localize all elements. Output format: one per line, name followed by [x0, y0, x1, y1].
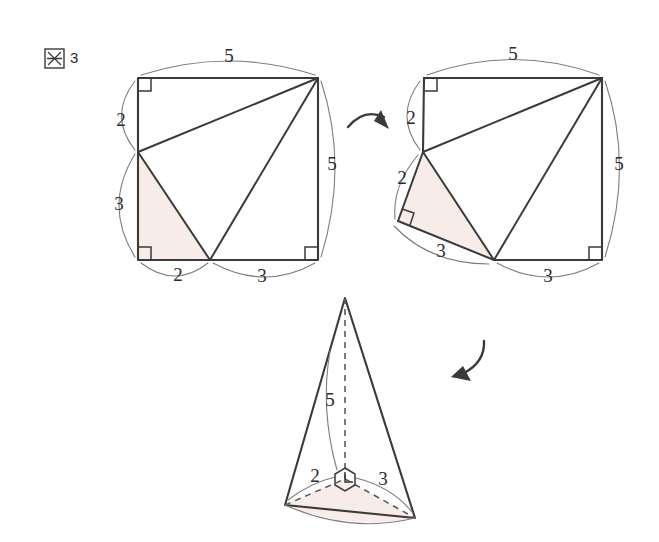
label-1-top: 5: [224, 45, 234, 66]
label-3-height: 5: [325, 389, 335, 410]
arrow-fold-head: [374, 110, 389, 129]
label-2-flap-lower: 3: [436, 240, 446, 261]
fold-line-1c: [210, 78, 318, 260]
label-2-bottom-right: 3: [543, 265, 553, 286]
label-1-bottom-left: 2: [173, 264, 183, 285]
measure-arc-3-height: [326, 351, 337, 470]
label-1-left-upper: 2: [116, 109, 126, 130]
label-1-left-lower: 3: [114, 193, 124, 214]
fold-line-2a: [423, 78, 602, 152]
fold-line-1a: [138, 78, 318, 152]
panel-square-unfolded: 5 5 2 3 2 3: [114, 45, 337, 286]
label-3-base-left: 2: [310, 465, 320, 486]
caption-number: 3: [70, 49, 78, 66]
panel-pyramid: 5 2 3: [285, 298, 415, 524]
arrow-fold: [348, 110, 389, 129]
label-2-right: 5: [614, 153, 624, 174]
right-angle-marker-1-br: [305, 247, 318, 260]
fold-line-2c: [494, 78, 602, 260]
right-angle-marker-2-tl: [424, 78, 437, 91]
figure-root: 3 5 5 2 3: [0, 0, 659, 542]
arrow-assemble-head: [451, 366, 471, 381]
panel-square-folded: 5 5 2 2 3 3: [394, 43, 624, 286]
figure-canvas: 3 5 5 2 3: [0, 0, 659, 542]
arrow-assemble: [451, 341, 484, 381]
shaded-triangle-2: [398, 152, 494, 260]
label-2-left-upper: 2: [406, 107, 416, 128]
label-3-base-right: 3: [378, 468, 388, 489]
caption-kanji-strokes: [48, 53, 62, 65]
figure-caption: 3: [45, 49, 78, 68]
label-1-right: 5: [327, 153, 337, 174]
square-outline-2-left: [423, 78, 424, 152]
label-2-flap-upper: 2: [397, 167, 407, 188]
label-2-top: 5: [508, 43, 518, 64]
right-angle-marker-1-tl: [138, 78, 151, 91]
label-1-bottom-right: 3: [257, 265, 267, 286]
arrow-assemble-curve: [464, 341, 484, 373]
right-angle-marker-2-br: [589, 247, 602, 260]
